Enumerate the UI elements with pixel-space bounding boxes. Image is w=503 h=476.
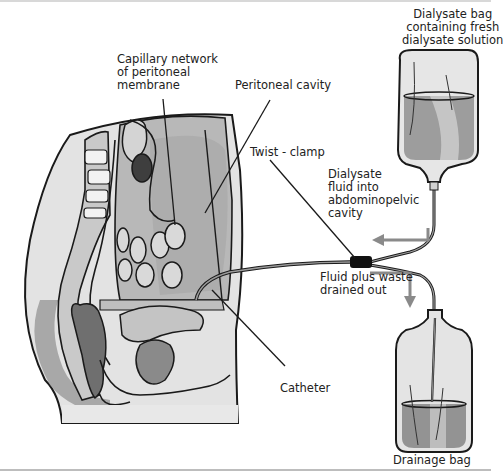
- body-cross-section: [25, 114, 242, 423]
- label-dialysate-bag: Dialysate bag containing fresh dialysate…: [402, 8, 503, 47]
- bottom-border: [0, 469, 491, 471]
- label-catheter: Catheter: [280, 382, 330, 395]
- inflow-arrow: [372, 228, 428, 246]
- label-fluid-drained: Fluid plus waste drained out: [320, 271, 413, 297]
- label-dialysate-fluid-in: Dialysate fluid into abdominopelvic cavi…: [328, 168, 419, 220]
- label-twist-clamp: Twist - clamp: [250, 146, 325, 159]
- label-peritoneal-cavity: Peritoneal cavity: [235, 79, 331, 92]
- drainage-bag: [396, 310, 472, 452]
- label-capillary-network: Capillary network of peritoneal membrane: [117, 53, 218, 92]
- label-drainage-bag: Drainage bag: [393, 454, 471, 467]
- twist-clamp: [350, 256, 372, 268]
